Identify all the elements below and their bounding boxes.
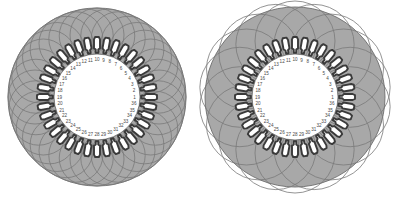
slot-number-label: 21 [59,108,65,113]
slot-number-label: 30 [107,130,113,135]
slot-number-label: 34 [127,113,133,118]
slot-number-label: 9 [300,58,303,63]
slot-number-label: 29 [299,132,305,137]
slot-number-label: 33 [123,119,129,124]
slot-number-label: 5 [322,71,325,76]
stator-slot [141,94,157,100]
slot-number-label: 29 [101,132,107,137]
slot-number-label: 18 [58,88,64,93]
slot-number-label: 25 [76,127,82,132]
stator-slot [235,94,251,100]
stator-bore [252,54,338,140]
slot-number-label: 17 [257,82,263,87]
slot-number-label: 34 [325,113,331,118]
stator-bore [54,54,140,140]
slot-number-label: 19 [57,95,63,100]
right-stator-svg: 1234567891011121314151617181920212223242… [196,0,393,197]
slot-number-label: 36 [329,101,335,106]
slot-number-label: 15 [264,71,270,76]
stator-slot [292,37,298,53]
stator-slot [292,141,298,157]
slot-number-label: 7 [114,62,117,67]
slot-number-label: 35 [328,108,334,113]
slot-number-label: 21 [257,108,263,113]
slot-number-label: 28 [94,132,100,137]
slot-number-label: 2 [331,88,334,93]
left-stator-svg: 1234567891011121314151617181920212223242… [0,0,197,197]
slot-number-label: 35 [130,108,136,113]
slot-number-label: 6 [120,66,123,71]
slot-number-label: 26 [280,130,286,135]
stator-slot [94,141,100,157]
slot-number-label: 3 [329,82,332,87]
slot-number-label: 22 [260,113,266,118]
slot-number-label: 9 [102,58,105,63]
slot-number-label: 10 [94,57,100,62]
slot-number-label: 20 [58,101,64,106]
right-stator-diagram: 1234567891011121314151617181920212223242… [196,0,393,197]
slot-number-label: 11 [286,58,291,63]
slot-number-label: 20 [256,101,262,106]
slot-number-label: 8 [109,59,112,64]
slot-number-label: 33 [321,119,327,124]
slot-number-label: 32 [317,123,323,128]
slot-number-label: 30 [305,130,311,135]
slot-number-label: 13 [76,62,82,67]
slot-number-label: 16 [260,76,266,81]
slot-number-label: 7 [312,62,315,67]
slot-number-label: 32 [119,123,125,128]
slot-number-label: 36 [131,101,137,106]
stator-slot [94,37,100,53]
slot-number-label: 17 [59,82,65,87]
slot-number-label: 26 [82,130,88,135]
slot-number-label: 5 [124,71,127,76]
slot-number-label: 1 [331,95,334,100]
slot-number-label: 12 [82,59,88,64]
slot-number-label: 27 [286,132,292,137]
slot-number-label: 18 [256,88,262,93]
diagram-stage: 1234567891011121314151617181920212223242… [0,0,393,197]
slot-number-label: 2 [133,88,136,93]
slot-number-label: 25 [274,127,280,132]
slot-number-label: 19 [255,95,261,100]
slot-number-label: 4 [326,76,329,81]
stator-slot [37,94,53,100]
slot-number-label: 6 [318,66,321,71]
slot-number-label: 13 [274,62,280,67]
slot-number-label: 14 [268,66,274,71]
slot-number-label: 3 [131,82,134,87]
slot-number-label: 15 [66,71,72,76]
slot-number-label: 28 [292,132,298,137]
slot-number-label: 4 [128,76,131,81]
slot-number-label: 8 [307,59,310,64]
left-stator-diagram: 1234567891011121314151617181920212223242… [0,0,197,197]
slot-number-label: 14 [70,66,76,71]
slot-number-label: 22 [62,113,68,118]
slot-number-label: 10 [292,57,298,62]
slot-number-label: 1 [133,95,136,100]
slot-number-label: 11 [88,58,93,63]
stator-slot [339,94,355,100]
slot-number-label: 16 [62,76,68,81]
slot-number-label: 27 [88,132,94,137]
slot-number-label: 12 [280,59,286,64]
